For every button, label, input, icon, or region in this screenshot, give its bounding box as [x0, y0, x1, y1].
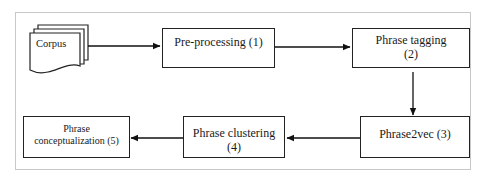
node-phrase-clustering: Phrase clustering (4) [183, 116, 285, 158]
node-phrase-conceptualization-label-line1: Phrase [63, 123, 90, 135]
node-phrase-conceptualization: Phrase conceptualization (5) [23, 116, 130, 158]
node-phrase2vec-label: Phrase2vec (3) [379, 128, 451, 142]
node-phrase-clustering-label-line1: Phrase clustering [193, 127, 275, 141]
node-preprocessing: Pre-processing (1) [162, 28, 275, 68]
node-phrase-conceptualization-label-line2: conceptualization (5) [34, 135, 119, 147]
corpus-label: Corpus [36, 38, 66, 49]
node-phrase-clustering-label-line2: (4) [227, 141, 241, 155]
node-preprocessing-label: Pre-processing (1) [174, 36, 262, 50]
node-phrase-tagging-label-line2: (2) [404, 48, 418, 62]
node-phrase-tagging-label-line1: Phrase tagging [376, 34, 447, 48]
node-phrase-tagging: Phrase tagging (2) [352, 28, 470, 68]
node-phrase2vec: Phrase2vec (3) [360, 116, 470, 158]
